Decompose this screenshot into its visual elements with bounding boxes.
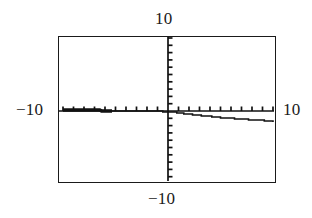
y-max-label: 10 <box>155 10 172 27</box>
plot-frame <box>58 36 276 183</box>
x-max-label: 10 <box>283 101 300 118</box>
graphing-calculator-window: 10 −10 10 −10 <box>0 0 312 218</box>
y-min-label: −10 <box>148 190 175 207</box>
plot-curve-left-thick <box>63 110 112 111</box>
plot-canvas <box>59 37 274 181</box>
x-min-label: −10 <box>16 101 43 118</box>
